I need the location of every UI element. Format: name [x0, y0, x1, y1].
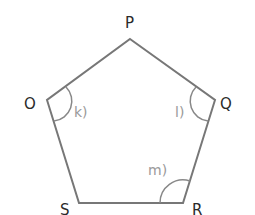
- angle-label-k: k): [74, 104, 88, 120]
- vertex-label-s: S: [60, 201, 70, 215]
- vertex-label-p: P: [125, 14, 134, 32]
- vertex-label-o: O: [24, 95, 36, 113]
- pentagon-outline: [47, 39, 215, 203]
- angle-label-l: l): [175, 104, 184, 120]
- vertex-label-q: Q: [220, 95, 232, 113]
- pentagon-diagram: P O Q S R k) l) m): [0, 0, 255, 215]
- vertex-label-r: R: [192, 201, 202, 215]
- angle-arc-r: [160, 180, 190, 203]
- angle-label-m: m): [148, 162, 167, 178]
